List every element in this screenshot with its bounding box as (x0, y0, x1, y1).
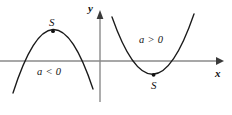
x-axis-arrow-icon (216, 57, 224, 65)
right-vertex-dot (152, 73, 156, 77)
parabola-figure: y x S S a < 0 a > 0 (0, 0, 232, 115)
right-coefficient-label: a > 0 (139, 35, 163, 46)
y-axis-arrow-icon (97, 10, 104, 19)
right-vertex-label: S (151, 80, 157, 91)
y-axis-label: y (88, 3, 93, 14)
figure-canvas (0, 0, 232, 115)
left-coefficient-label: a < 0 (37, 67, 61, 78)
left-vertex-dot (51, 29, 55, 33)
left-vertex-label: S (49, 17, 55, 28)
x-axis-label: x (215, 68, 221, 79)
